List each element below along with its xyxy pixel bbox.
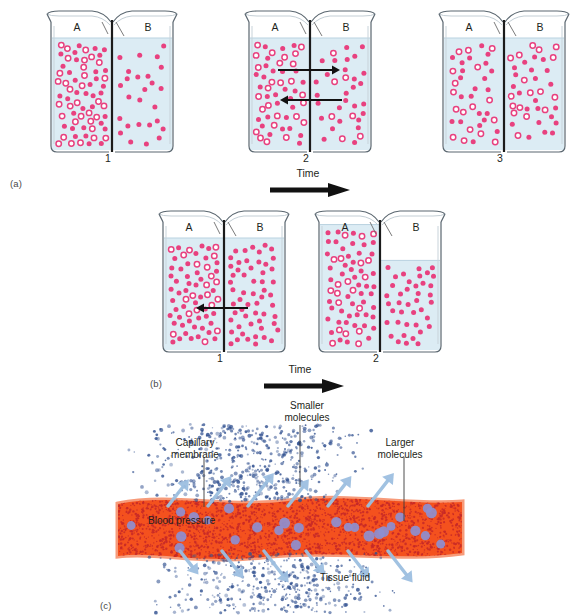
- beaker-a2: AB: [243, 8, 377, 160]
- time-arrow-b: [262, 378, 346, 394]
- capillary-diagram: [0, 395, 576, 595]
- svg-text:A: A: [342, 221, 349, 233]
- svg-text:B: B: [257, 221, 264, 233]
- svg-text:B: B: [537, 21, 544, 33]
- svg-text:A: A: [74, 21, 81, 33]
- svg-text:A: A: [186, 221, 193, 233]
- beaker-step-number: 3: [488, 152, 512, 164]
- beaker-step-number: 1: [208, 352, 232, 364]
- label-blood-pressure: Blood pressure: [148, 515, 258, 527]
- panel-label-c: (c): [100, 600, 112, 611]
- svg-text:B: B: [343, 21, 350, 33]
- beaker-b2: AB: [313, 208, 447, 360]
- time-arrow-a: [268, 182, 352, 198]
- svg-text:B: B: [413, 221, 420, 233]
- time-label-b: Time: [270, 363, 330, 375]
- beaker-step-number: 2: [294, 152, 318, 164]
- beaker-step-number: 1: [96, 152, 120, 164]
- time-label-a: Time: [278, 167, 338, 179]
- beaker-step-number: 2: [364, 352, 388, 364]
- svg-text:A: A: [466, 21, 473, 33]
- figure-diffusion-osmosis-filtration: (a) AB AB AB 1 2 3 Time (b) AB AB 1 2 Ti…: [0, 0, 576, 616]
- beaker-b1: AB: [157, 208, 291, 360]
- beaker-a3: AB: [437, 8, 571, 160]
- svg-text:A: A: [272, 21, 279, 33]
- label-larger-molecules: Larger molecules: [355, 437, 445, 460]
- label-smaller-molecules: Smaller molecules: [262, 400, 352, 423]
- panel-label-b: (b): [150, 378, 162, 389]
- label-capillary-membrane: Capillary membrane: [150, 437, 240, 460]
- label-tissue-fluid: Tissue fluid: [300, 572, 390, 584]
- panel-label-a: (a): [10, 178, 22, 189]
- svg-text:B: B: [145, 21, 152, 33]
- beaker-a1: AB: [45, 8, 179, 160]
